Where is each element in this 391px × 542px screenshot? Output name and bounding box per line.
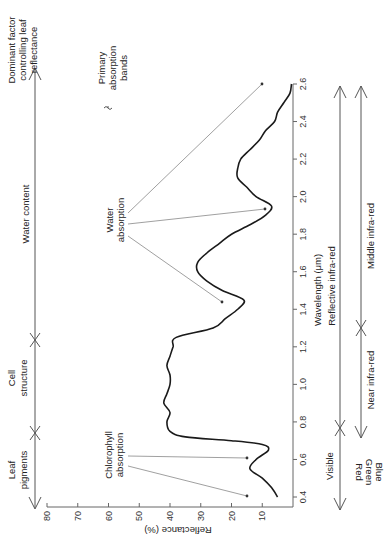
reflectance-tick-label: 70 (73, 511, 83, 521)
leaf-pigments-label-line: pigments (18, 450, 29, 489)
middle-ir-label: Middle infra-red (365, 203, 376, 269)
dominant-factor-band (29, 68, 41, 509)
chart-canvas: Dominant factorcontrolling leafreflectan… (0, 0, 391, 542)
wavelength-tick-label: 2.6 (298, 78, 308, 91)
primary-bands-label-line: Primary (96, 51, 107, 84)
chlorophyll-absorption-label-line: Chlorophyll (103, 431, 114, 479)
reflectance-tick-label: 40 (165, 511, 175, 521)
reflectance-axis-label-line: Reflectance (%) (144, 525, 212, 536)
wavelength-tick-label: 2.4 (298, 115, 308, 128)
band-labels: Wavelength (μm)Reflective infra-redMiddl… (312, 203, 385, 485)
reflectance-curve (164, 84, 292, 497)
pointer-head-icon (246, 457, 249, 460)
annotation-pointer (128, 236, 222, 302)
reflectance-tick-label: 50 (134, 511, 144, 521)
dominant-factor-label-line: controlling leaf (17, 19, 28, 81)
water-content-label-line: Water content (20, 184, 31, 243)
wavelength-tick-label: 0.6 (298, 453, 308, 466)
water-absorption-label-line: Water (104, 208, 115, 233)
pointer-head-icon (264, 208, 267, 211)
dominant-factor-label-line: Dominant factor (6, 16, 17, 83)
wavelength-tick-label: 1.0 (298, 378, 308, 391)
wavelength-tick-label: 0.8 (298, 416, 308, 429)
reflectance-tick-label: 20 (227, 511, 237, 521)
reflectance-tick-label: 80 (42, 511, 52, 521)
water-content-label: Water content (20, 184, 31, 243)
annotation-pointer (128, 84, 262, 213)
reflectance-tick-label: 10 (257, 511, 267, 521)
water-absorption-label-line: absorption (115, 198, 126, 242)
leaf-reflectance-chart: Dominant factorcontrolling leafreflectan… (0, 0, 391, 542)
wavelength-axis-label: Wavelength (μm) (312, 254, 323, 326)
annotation-pointer (128, 466, 247, 496)
chlorophyll-absorption-label-line: absorption (114, 433, 125, 477)
pointer-head-icon (246, 495, 249, 498)
leaf-pigments-label-line: Leaf (6, 460, 17, 479)
axis-ticks: 0.40.60.81.01.21.41.61.82.02.22.42.68070… (42, 78, 308, 521)
reflectance-tick-label: 30 (196, 511, 206, 521)
spectral-bands (334, 86, 367, 510)
water-absorption-label: Waterabsorption (104, 198, 126, 242)
dominant-factor-label: Dominant factorcontrolling leafreflectan… (6, 16, 39, 83)
dominant-factor-label-line: reflectance (28, 27, 39, 73)
wavelength-axis-label-line: Wavelength (μm) (312, 254, 323, 326)
reflective-ir-label-line: Reflective infra-red (326, 246, 337, 326)
primary-bands-label-line: bands (118, 55, 129, 81)
annotation-pointer (128, 209, 265, 224)
visible-colors-label-line: Red (354, 463, 365, 480)
wavelength-tick-label: 1.8 (298, 228, 308, 241)
primary-bands-label: Primaryabsorptionbands (96, 46, 129, 90)
visible-colors-label: BlueGreenRed (354, 459, 385, 485)
pointer-head-icon (261, 83, 264, 86)
factor-labels: Dominant factorcontrolling leafreflectan… (6, 16, 212, 536)
primary-bands-label-line: absorption (107, 46, 118, 90)
pointer-head-icon (221, 301, 224, 304)
wavelength-tick-label: 1.4 (298, 303, 308, 316)
reflectance-tick-label: 60 (104, 511, 114, 521)
visible-label: Visible (324, 452, 335, 480)
cell-structure-label: Cellstructure (6, 360, 29, 397)
visible-label-line: Visible (324, 452, 335, 480)
chlorophyll-absorption-label: Chlorophyllabsorption (103, 431, 125, 479)
near-ir-label: Near infra-red (365, 351, 376, 410)
annotation-pointers (128, 83, 266, 498)
wavelength-tick-label: 2.2 (298, 153, 308, 166)
wavelength-tick-label: 1.6 (298, 265, 308, 278)
annotation-pointer (128, 456, 247, 458)
cell-structure-label-line: Cell (6, 370, 17, 386)
wavelength-tick-label: 2.0 (298, 190, 308, 203)
reflectance-axis-label: Reflectance (%) (144, 525, 212, 536)
cell-structure-label-line: structure (18, 360, 29, 397)
reflective-ir-label: Reflective infra-red (326, 246, 337, 326)
middle-ir-label-line: Middle infra-red (365, 203, 376, 269)
near-ir-label-line: Near infra-red (365, 351, 376, 410)
brace-icon (104, 106, 112, 110)
leaf-pigments-label: Leafpigments (6, 450, 29, 489)
wavelength-tick-label: 0.4 (298, 491, 308, 504)
wavelength-tick-label: 1.2 (298, 341, 308, 354)
